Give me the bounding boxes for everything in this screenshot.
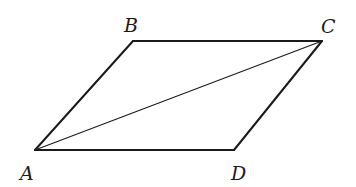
vertex-label-d: D bbox=[230, 162, 246, 184]
vertex-label-a: A bbox=[18, 162, 34, 184]
diagram-svg: A B C D bbox=[0, 0, 356, 187]
vertex-label-c: C bbox=[321, 15, 336, 37]
parallelogram-diagram: A B C D bbox=[0, 0, 356, 187]
side-ab bbox=[35, 41, 133, 150]
vertex-label-b: B bbox=[123, 14, 138, 36]
